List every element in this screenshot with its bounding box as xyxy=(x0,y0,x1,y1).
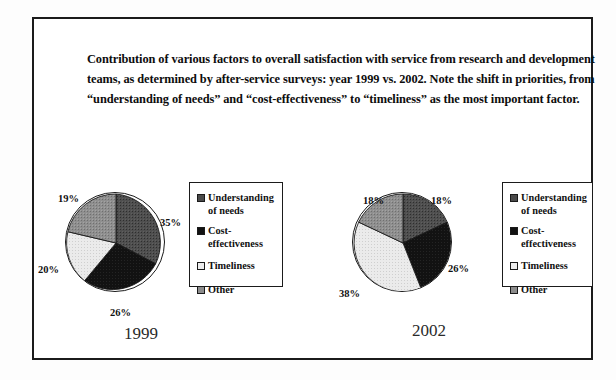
legend-2002: Understanding of needs Cost-effectivenes… xyxy=(502,182,593,287)
pie-2002-svg xyxy=(353,193,452,292)
cost-swatch-icon xyxy=(510,227,518,235)
legend-label-other: Other xyxy=(521,283,547,296)
legend-label-cost: Cost-effectiveness xyxy=(521,224,586,250)
legend-label-timeliness: Timeliness xyxy=(521,259,568,272)
pct-2002-other: 18% xyxy=(363,195,384,206)
pie-2002 xyxy=(352,192,452,292)
other-swatch-icon xyxy=(510,286,518,294)
legend-label-understanding: Understanding of needs xyxy=(521,191,587,217)
year-label-2002: 2002 xyxy=(412,321,446,341)
chart-2002: 18% 26% 38% 18% 2002 Understanding of ne… xyxy=(34,19,591,358)
understanding-swatch-icon xyxy=(510,194,518,202)
legend-item-understanding[interactable]: Understanding of needs xyxy=(510,191,586,217)
figure-frame: Contribution of various factors to overa… xyxy=(32,17,593,360)
timeliness-swatch-icon xyxy=(510,262,518,270)
legend-item-other[interactable]: Other xyxy=(510,283,586,296)
pct-2002-cost: 26% xyxy=(448,263,469,274)
pct-2002-understanding: 18% xyxy=(431,195,452,206)
legend-item-timeliness[interactable]: Timeliness xyxy=(510,259,586,272)
legend-item-cost[interactable]: Cost-effectiveness xyxy=(510,224,586,250)
pct-2002-timeliness: 38% xyxy=(339,288,360,299)
